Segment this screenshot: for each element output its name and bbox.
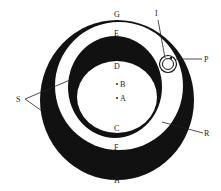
label-a: A [120, 94, 126, 103]
label-e: E [114, 29, 119, 38]
middle-ring [68, 36, 162, 138]
label-g: G [114, 10, 120, 19]
label-r: R [204, 129, 210, 138]
label-f: F [114, 143, 119, 152]
small-circle-p [160, 56, 177, 73]
point-a [116, 97, 118, 99]
leader-s-lower [25, 99, 42, 111]
concentric-rings-diagram: G E D B A C F H I P S R [0, 0, 221, 191]
label-d: D [114, 62, 120, 71]
label-h: H [114, 176, 120, 185]
label-b: B [120, 80, 125, 89]
point-b [116, 83, 118, 85]
label-s: S [16, 95, 20, 104]
label-i: I [155, 9, 158, 18]
label-c: C [114, 124, 119, 133]
label-p: P [204, 55, 209, 64]
